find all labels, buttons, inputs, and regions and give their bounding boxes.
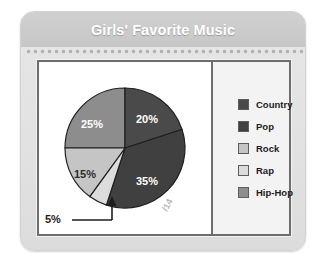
legend-label-country: Country — [256, 99, 292, 110]
legend-label-rap: Rap — [256, 165, 274, 176]
legend-swatch-rap — [238, 165, 249, 176]
legend-item-hiphop[interactable]: Hip-Hop — [238, 181, 291, 203]
pie-label-rock: 15% — [74, 168, 96, 180]
pie-label-pop: 35% — [136, 175, 158, 187]
legend-swatch-hiphop — [238, 187, 249, 198]
watermark-text: /14 — [160, 197, 175, 213]
legend-item-rock[interactable]: Rock — [238, 137, 291, 159]
perforation-divider — [25, 48, 303, 54]
legend-label-pop: Pop — [256, 121, 274, 132]
plot-frame: 20% 35% 15% 25% 5% /14 Country — [37, 60, 291, 236]
pie-chart-area: 20% 35% 15% 25% 5% /14 — [39, 62, 211, 234]
legend-swatch-pop — [238, 121, 249, 132]
chart-card: Girls' Favorite Music 20% 35% 15% 25% — [20, 11, 306, 251]
legend-label-hiphop: Hip-Hop — [256, 187, 293, 198]
legend-swatch-country — [238, 99, 249, 110]
legend-item-rap[interactable]: Rap — [238, 159, 291, 181]
pie-chart-svg: 20% 35% 15% 25% 5% /14 — [39, 62, 211, 234]
legend-swatch-rock — [238, 143, 249, 154]
pie-label-country: 20% — [136, 113, 158, 125]
chart-header-band: Girls' Favorite Music — [21, 12, 305, 47]
legend-item-pop[interactable]: Pop — [238, 115, 291, 137]
panel-divider — [211, 62, 213, 234]
legend-label-rock: Rock — [256, 143, 279, 154]
chart-legend: Country Pop Rock Rap Hip-Hop — [221, 62, 291, 234]
page-title: Girls' Favorite Music — [91, 22, 235, 38]
legend-item-country[interactable]: Country — [238, 93, 291, 115]
pie-label-hiphop: 25% — [81, 118, 103, 130]
callout-label-5-percent: 5% — [45, 213, 61, 225]
